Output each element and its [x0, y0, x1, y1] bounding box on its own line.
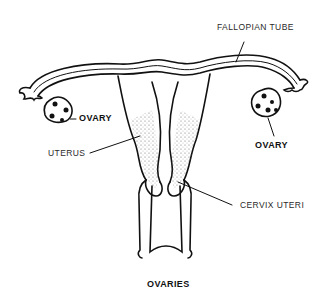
label-ovary-left: OVARY — [79, 113, 112, 123]
ovary-right — [252, 88, 281, 116]
label-cervix-uteri: CERVIX UTERI — [240, 200, 304, 210]
fallopian-tube — [30, 55, 300, 96]
vagina — [138, 180, 191, 258]
label-ovary-right: OVARY — [255, 140, 288, 150]
label-uterus: UTERUS — [48, 148, 85, 158]
fimbria-right — [284, 79, 308, 91]
label-fallopian-tube: FALLOPIAN TUBE — [217, 22, 294, 32]
diagram-title: OVARIES — [147, 279, 190, 289]
